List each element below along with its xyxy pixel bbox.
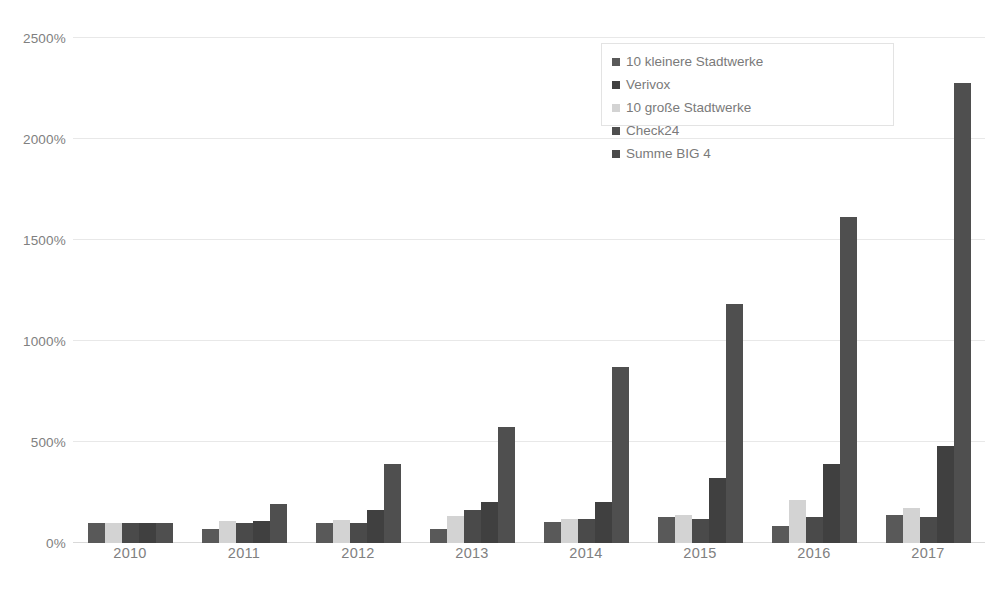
legend-items: 10 kleinere StadtwerkeVerivox10 große St… bbox=[612, 50, 885, 188]
legend-label: 10 kleinere Stadtwerke bbox=[626, 55, 763, 69]
bar bbox=[270, 504, 287, 543]
legend-swatch-icon bbox=[612, 58, 620, 66]
bar bbox=[823, 464, 840, 543]
legend-item: Verivox bbox=[612, 73, 698, 96]
bar bbox=[920, 517, 937, 543]
bar bbox=[156, 523, 173, 543]
bar bbox=[903, 508, 920, 543]
bar bbox=[447, 516, 464, 543]
bar bbox=[595, 502, 612, 543]
bar bbox=[658, 517, 675, 543]
bar bbox=[954, 83, 971, 543]
bar bbox=[789, 500, 806, 543]
bar bbox=[384, 464, 401, 543]
bar bbox=[253, 521, 270, 543]
x-tick-label: 2011 bbox=[187, 545, 301, 575]
legend-item: Summe BIG 4 bbox=[612, 142, 809, 165]
bar-group-2010 bbox=[73, 38, 187, 543]
y-tick-label: 1000% bbox=[8, 334, 66, 349]
x-tick-label: 2012 bbox=[301, 545, 415, 575]
y-tick-label: 500% bbox=[8, 435, 66, 450]
legend-spacer bbox=[612, 165, 698, 188]
x-tick-label: 2010 bbox=[73, 545, 187, 575]
bar bbox=[202, 529, 219, 543]
legend-label: Summe BIG 4 bbox=[626, 147, 711, 161]
bar bbox=[675, 515, 692, 543]
bar bbox=[367, 510, 384, 543]
bar bbox=[88, 523, 105, 543]
bars bbox=[415, 38, 529, 543]
y-tick-label: 1500% bbox=[8, 233, 66, 248]
bar bbox=[578, 519, 595, 543]
bar bbox=[498, 427, 515, 543]
legend-swatch-icon bbox=[612, 81, 620, 89]
bar-group-2012 bbox=[301, 38, 415, 543]
bar bbox=[806, 517, 823, 543]
legend-swatch-icon bbox=[612, 104, 620, 112]
bar bbox=[612, 367, 629, 543]
legend-item: 10 kleinere Stadtwerke bbox=[612, 50, 809, 73]
x-axis: 20102011201220132014201520162017 bbox=[73, 545, 985, 575]
bar bbox=[236, 523, 253, 543]
bars bbox=[73, 38, 187, 543]
bars bbox=[187, 38, 301, 543]
bar bbox=[561, 519, 578, 543]
bar bbox=[333, 520, 350, 543]
bar bbox=[772, 526, 789, 543]
legend-swatch-icon bbox=[612, 150, 620, 158]
legend-item: 10 große Stadtwerke bbox=[612, 96, 809, 119]
legend-label: 10 große Stadtwerke bbox=[626, 101, 751, 115]
bar bbox=[481, 502, 498, 543]
x-tick-label: 2015 bbox=[643, 545, 757, 575]
bar-group-2013 bbox=[415, 38, 529, 543]
bar bbox=[122, 523, 139, 543]
bar bbox=[316, 523, 333, 543]
bar bbox=[692, 519, 709, 543]
bar bbox=[937, 446, 954, 543]
legend-swatch-icon bbox=[612, 127, 620, 135]
x-tick-label: 2016 bbox=[757, 545, 871, 575]
x-tick-label: 2014 bbox=[529, 545, 643, 575]
x-tick-label: 2017 bbox=[871, 545, 985, 575]
bar bbox=[726, 304, 743, 543]
bar bbox=[886, 515, 903, 543]
bar bbox=[105, 523, 122, 543]
bar bbox=[464, 510, 481, 543]
bar-chart: 0%500%1000%1500%2000%2500% 2010201120122… bbox=[0, 0, 995, 597]
y-tick-label: 2500% bbox=[8, 31, 66, 46]
y-axis: 0%500%1000%1500%2000%2500% bbox=[0, 38, 66, 543]
bar bbox=[840, 217, 857, 543]
bar bbox=[430, 529, 447, 543]
bar bbox=[350, 523, 367, 543]
x-tick-label: 2013 bbox=[415, 545, 529, 575]
y-tick-label: 0% bbox=[8, 536, 66, 551]
bar bbox=[219, 521, 236, 543]
legend-label: Check24 bbox=[626, 124, 679, 138]
y-tick-label: 2000% bbox=[8, 132, 66, 147]
bar-group-2011 bbox=[187, 38, 301, 543]
legend-label: Verivox bbox=[626, 78, 670, 92]
legend-item: Check24 bbox=[612, 119, 698, 142]
chart-legend: 10 kleinere StadtwerkeVerivox10 große St… bbox=[601, 43, 894, 126]
bar bbox=[709, 478, 726, 543]
bar bbox=[139, 523, 156, 543]
bars bbox=[301, 38, 415, 543]
bar bbox=[544, 522, 561, 543]
